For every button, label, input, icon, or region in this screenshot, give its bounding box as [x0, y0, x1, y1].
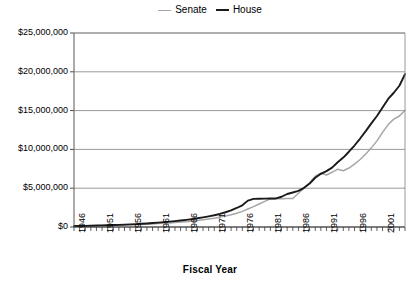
y-tick-label: $20,000,000	[18, 67, 68, 76]
x-tick-label: 1996	[359, 213, 368, 233]
x-axis-minor-ticks	[74, 227, 405, 231]
x-tick-label: 1956	[134, 213, 143, 233]
y-tick-label: $15,000,000	[18, 106, 68, 115]
x-tick-label: 1981	[274, 213, 283, 233]
y-tick-label: $25,000,000	[18, 28, 68, 37]
legend-item-senate: Senate	[158, 4, 207, 16]
x-tick-label: 1986	[302, 213, 311, 233]
chart-legend: Senate House	[0, 4, 420, 16]
x-tick-label: 1946	[78, 213, 87, 233]
legend-line-swatch-senate-icon	[158, 10, 171, 11]
plot-background	[74, 33, 405, 227]
x-tick-label: 1961	[162, 213, 171, 233]
legend-label-house: House	[233, 4, 262, 16]
x-tick-label: 1971	[218, 213, 227, 233]
y-tick-label: $0	[58, 222, 68, 231]
x-tick-label: 1966	[190, 213, 199, 233]
axis-major-ticks	[70, 33, 74, 227]
x-tick-label: 1951	[106, 213, 115, 233]
legend-label-senate: Senate	[175, 4, 207, 16]
legend-line-swatch-house-icon	[216, 9, 229, 11]
legend-item-house: House	[216, 4, 262, 16]
x-axis-title: Fiscal Year	[0, 264, 420, 275]
x-tick-label: 1991	[330, 213, 339, 233]
y-tick-label: $10,000,000	[18, 144, 68, 153]
x-tick-label: 2001	[387, 213, 396, 233]
y-tick-label: $5,000,000	[23, 183, 68, 192]
x-tick-label: 1976	[246, 213, 255, 233]
line-chart: Senate House $0$5,000,000$10,000,000$15,…	[0, 0, 420, 284]
plot-area	[0, 0, 420, 284]
